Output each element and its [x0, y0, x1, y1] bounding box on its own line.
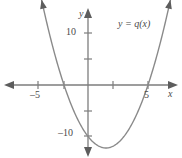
y-axis-tick-label-10: 10 [66, 27, 76, 37]
x-axis-name-label: x [168, 89, 172, 99]
x-axis [4, 81, 178, 89]
y-axis-bottom-arrowhead [84, 147, 92, 157]
coordinate-plane [0, 0, 182, 158]
x-axis-tick-label-pos5: 5 [144, 90, 149, 100]
parabola-curve-group [40, 0, 172, 148]
y-axis-name-label: y [79, 9, 83, 19]
parabola-left-arrowhead [40, 0, 47, 9]
function-equation-label: y = q(x) [118, 19, 150, 29]
parabola-curve [42, 0, 171, 148]
y-axis-tick-label-neg10: –10 [58, 128, 73, 138]
graph-figure: –5 5 10 –10 x y y = q(x) [0, 0, 182, 158]
x-axis-tick-label-neg5: –5 [30, 90, 40, 100]
parabola-right-arrowhead [165, 0, 172, 9]
x-axis-left-arrowhead [4, 81, 14, 89]
y-axis [84, 8, 92, 157]
y-axis-top-arrowhead [84, 8, 92, 18]
